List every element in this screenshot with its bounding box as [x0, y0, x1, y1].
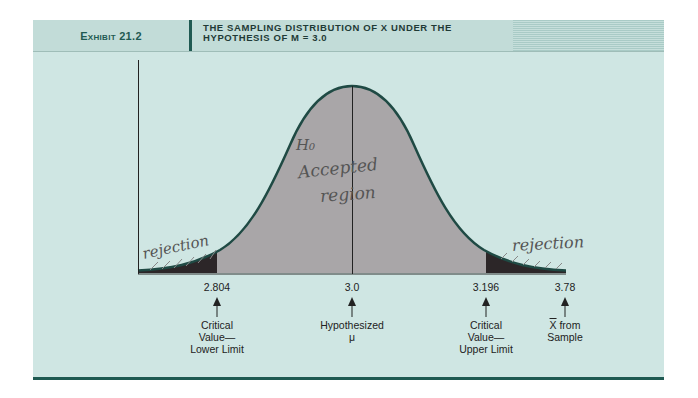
- desc-line: Hypothesized: [320, 319, 384, 331]
- tick-label-lower-critical: 2.804: [204, 281, 230, 293]
- desc-line: X from: [547, 319, 583, 331]
- desc-lower-critical: Critical Value— Lower Limit: [190, 319, 244, 355]
- desc-line: Value—: [190, 331, 244, 343]
- tick-label-sample-mean: 3.78: [555, 281, 575, 293]
- arrow-shaft: [217, 305, 218, 317]
- tick-label-mean: 3.0: [345, 281, 360, 293]
- desc-line: Critical: [190, 319, 244, 331]
- arrow-shaft: [352, 305, 353, 317]
- rejection-annotation-right: rejection: [512, 232, 585, 255]
- desc-line: Critical: [459, 319, 513, 331]
- region-annotation: region: [319, 182, 376, 206]
- desc-line: Sample: [547, 331, 583, 343]
- desc-text: from: [557, 319, 581, 331]
- arrow-shaft: [486, 305, 487, 317]
- desc-line: μ: [320, 331, 384, 343]
- desc-sample-mean: X from Sample: [547, 319, 583, 343]
- desc-line: Value—: [459, 331, 513, 343]
- h0-annotation: H₀: [296, 136, 315, 154]
- desc-line: Lower Limit: [190, 343, 244, 355]
- desc-upper-critical: Critical Value— Upper Limit: [459, 319, 513, 355]
- arrow-shaft: [565, 305, 566, 317]
- bottom-rule: [33, 377, 664, 380]
- tick-label-upper-critical: 3.196: [473, 281, 499, 293]
- desc-line: Upper Limit: [459, 343, 513, 355]
- desc-hypothesized-mean: Hypothesized μ: [320, 319, 384, 343]
